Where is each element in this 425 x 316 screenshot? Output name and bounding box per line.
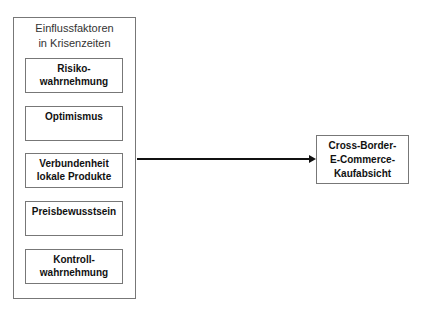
arrow-head-icon <box>309 155 316 163</box>
factor-price-consciousness: Preisbewusstsein <box>25 201 123 236</box>
factor-local-product-attachment: Verbundenheit lokale Produkte <box>25 153 123 188</box>
factor-optimism: Optimismus <box>25 106 123 141</box>
factor-control-perception: Kontroll- wahrnehmung <box>25 249 123 284</box>
arrow-connector <box>137 158 311 160</box>
group-title: Einflussfaktoren in Krisenzeiten <box>14 21 135 51</box>
purchase-intention-box: Cross-Border- E-Commerce- Kaufabsicht <box>316 135 409 184</box>
influence-factors-group: Einflussfaktoren in Krisenzeiten Risiko-… <box>13 17 136 299</box>
factor-risk-perception: Risiko- wahrnehmung <box>25 58 123 93</box>
